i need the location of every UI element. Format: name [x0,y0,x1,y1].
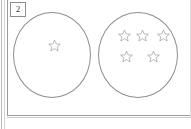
star-icon [157,29,170,42]
question-number-label: 2 [16,5,21,14]
star-icon [120,50,133,63]
panel-right-edge [190,0,191,117]
right-group-circle [98,12,178,98]
left-group-circle [13,12,91,98]
scan-edge-outer [1,0,2,129]
scan-edge-inner [4,0,5,129]
star-icon [118,29,131,42]
question-number-box: 2 [10,2,26,17]
worksheet-screenshot: 2 [0,0,191,129]
star-icon [147,50,160,63]
star-icon [48,39,61,52]
panel-bottom-shadow [7,117,191,118]
star-icon [136,29,149,42]
